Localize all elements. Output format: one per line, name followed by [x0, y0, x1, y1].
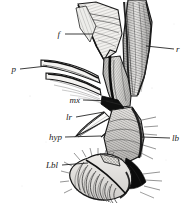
label-text-hyp: hyp — [49, 132, 62, 142]
label-text-r: r — [176, 44, 180, 54]
label-text-mx: mx — [70, 95, 81, 105]
label-text-lr: lr — [66, 112, 73, 122]
label-text-Lbl: Lbl — [45, 160, 59, 170]
label-text-p: p — [11, 64, 17, 74]
mouthparts-illustration: f p r mx lr hyp — [0, 0, 192, 204]
figure-container: f p r mx lr hyp — [0, 0, 192, 204]
label-text-lb: lb — [172, 133, 180, 143]
